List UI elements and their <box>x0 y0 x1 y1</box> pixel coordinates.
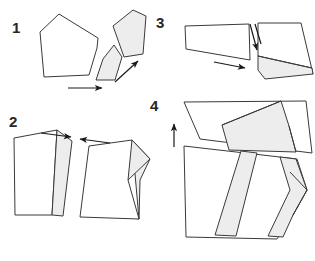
panel-1-main-pentagon <box>40 14 98 77</box>
panel-2-label: 2 <box>9 113 17 130</box>
diagram-canvas: 1 2 3 <box>0 0 315 261</box>
panel-2-left-quad-unshaded <box>14 130 57 215</box>
panel-4: 4 <box>150 97 312 239</box>
panel-3-arrow-right-below <box>214 62 245 68</box>
panel-2-right-quad-unshaded <box>80 140 139 219</box>
panel-1-label: 1 <box>12 19 20 36</box>
panel-1-shaded-sliver-upper <box>113 10 146 57</box>
panel-2: 2 <box>9 113 150 219</box>
panel-2-arrow-left-top <box>80 139 110 143</box>
panel-4-label: 4 <box>150 97 159 114</box>
panel-1: 1 <box>12 10 146 88</box>
panel-3-label: 3 <box>156 14 164 31</box>
dissection-diagram: 1 2 3 <box>0 0 315 261</box>
panel-3: 3 <box>156 14 313 79</box>
panel-1-shaded-sliver-lower <box>96 45 122 80</box>
panel-3-left-trapezoid <box>185 24 250 60</box>
